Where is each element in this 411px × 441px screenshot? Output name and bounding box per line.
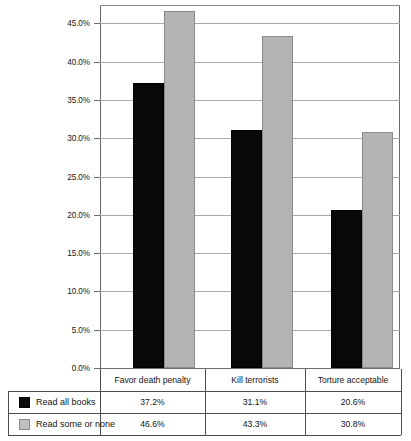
y-axis-tick-label: 10.0%: [24, 287, 90, 296]
y-axis-tick: [94, 291, 100, 292]
category-label: Torture acceptable: [305, 369, 401, 391]
y-axis-tick-label: 5.0%: [24, 325, 90, 334]
bar-read-all-books: [331, 210, 362, 368]
chart-figure: 0.0%5.0%10.0%15.0%20.0%25.0%30.0%35.0%40…: [0, 0, 411, 441]
table-cell-value: 43.3%: [205, 413, 305, 435]
bar-read-all-books: [231, 130, 262, 368]
y-axis-tick: [94, 177, 100, 178]
black-swatch-icon: [19, 397, 30, 408]
table-cell-value: 37.2%: [100, 391, 205, 413]
y-axis-tick: [94, 100, 100, 101]
legend-label: Read all books: [36, 391, 96, 413]
y-axis-tick-label: 15.0%: [24, 249, 90, 258]
bar-read-some-or-none: [362, 132, 393, 368]
table-cell-value: 46.6%: [100, 413, 205, 435]
grey-swatch-icon: [19, 419, 30, 430]
table-cell-value: 31.1%: [205, 391, 305, 413]
y-axis-tick-label: 40.0%: [24, 57, 90, 66]
table-divider: [8, 391, 9, 435]
y-axis-tick-label: 0.0%: [24, 364, 90, 373]
category-label: Kill terrorists: [205, 369, 305, 391]
plot-area: [100, 5, 400, 368]
y-axis-tick: [94, 215, 100, 216]
y-axis-tick-label: 30.0%: [24, 134, 90, 143]
gridline: [100, 62, 400, 63]
y-axis-tick: [94, 23, 100, 24]
plot-top-border: [100, 5, 400, 6]
table-cell-value: 30.8%: [305, 413, 401, 435]
table-divider: [8, 435, 401, 436]
bar-read-some-or-none: [164, 11, 195, 368]
y-axis-tick: [94, 330, 100, 331]
bar-read-some-or-none: [262, 36, 293, 368]
gridline: [100, 23, 400, 24]
y-axis-tick: [94, 253, 100, 254]
bar-read-all-books: [133, 83, 164, 368]
y-axis-tick-label: 45.0%: [24, 19, 90, 28]
category-label: Favor death penalty: [100, 369, 205, 391]
table-cell-value: 20.6%: [305, 391, 401, 413]
y-axis-tick-label: 20.0%: [24, 210, 90, 219]
y-axis-tick: [94, 138, 100, 139]
y-axis-tick-label: 35.0%: [24, 95, 90, 104]
y-axis-tick: [94, 62, 100, 63]
y-axis-tick-label: 25.0%: [24, 172, 90, 181]
table-divider: [401, 369, 402, 435]
